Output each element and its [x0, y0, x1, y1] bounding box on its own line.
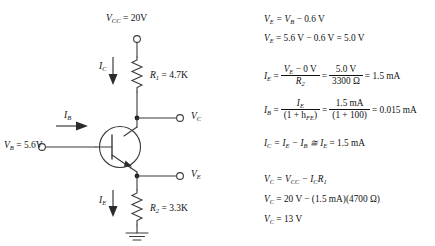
equation-list: VE = VB − 0.6 V VE = 5.6 V − 0.6 V = 5.0… — [253, 0, 435, 246]
ib-current-arrow-icon — [56, 122, 88, 131]
equation-ve-definition: VE = VB − 0.6 V — [264, 15, 325, 24]
equation-ie: IE = VE − 0 V R2 = 5.0 V 3300 Ω = 1.5 mA — [264, 66, 400, 88]
ic-current-arrow-icon — [109, 57, 118, 85]
label-ib: IB — [64, 111, 71, 121]
vc-terminal-icon — [177, 115, 184, 122]
fraction-ie-right: 5.0 V 3300 Ω — [329, 65, 363, 87]
label-r2: R2 = 3.3K — [150, 204, 188, 214]
equation-vc-substitution: VC = 20 V − (1.5 mA)(4700 Ω) — [264, 195, 380, 204]
circuit-schematic-svg — [0, 0, 230, 246]
equation-vc-definition: VC = VCC − ICR1 — [264, 175, 327, 184]
vcc-terminal-icon — [134, 36, 141, 43]
ie-current-arrow-icon — [109, 190, 118, 217]
label-vc: VC — [191, 112, 201, 122]
fraction-ib-right: 1.5 mA (1 + 100) — [329, 99, 370, 121]
fraction-ib-left: IE (1 + hFE) — [281, 99, 320, 121]
label-ie: IE — [99, 196, 106, 206]
equation-ib: IB = IE (1 + hFE) = 1.5 mA (1 + 100) = 0… — [264, 100, 417, 122]
equation-ve-value: VE = 5.6 V − 0.6 V = 5.0 V — [264, 34, 364, 43]
fraction-ie-left: VE − 0 V R2 — [281, 65, 320, 87]
circuit-diagram: VCC = 20V R1 = 4.7K R2 = 3.3K IC IB IE V… — [0, 0, 230, 246]
emitter-arrow-icon — [124, 161, 132, 167]
figure-root: VCC = 20V R1 = 4.7K R2 = 3.3K IC IB IE V… — [0, 0, 435, 246]
equation-ic: IC = IE − IB ≅ IE = 1.5 mA — [264, 139, 365, 148]
label-vcc: VCC = 20V — [106, 14, 147, 24]
resistor-r1-icon — [132, 57, 142, 92]
ve-terminal-icon — [177, 173, 184, 180]
label-ve: VE — [191, 170, 201, 180]
label-vb: VB = 5.6V — [4, 141, 43, 151]
resistor-r2-icon — [132, 190, 142, 225]
equation-vc-result: VC = 13 V — [264, 215, 302, 224]
label-r1: R1 = 4.7K — [150, 71, 188, 81]
label-ic: IC — [99, 62, 107, 72]
